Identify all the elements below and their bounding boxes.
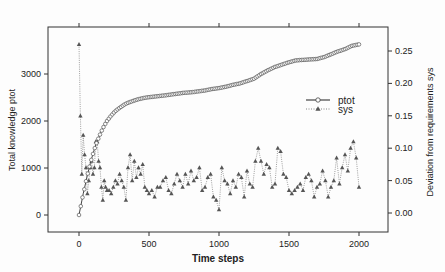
y-right-tick-label: 0.10 bbox=[395, 143, 413, 153]
triangle-marker-icon bbox=[262, 172, 266, 176]
triangle-marker-icon bbox=[253, 159, 257, 163]
triangle-marker-icon bbox=[92, 165, 96, 169]
triangle-marker-icon bbox=[320, 168, 324, 172]
triangle-marker-icon bbox=[343, 152, 347, 156]
triangle-marker-icon bbox=[186, 181, 190, 185]
legend-item-sys: sys bbox=[306, 104, 353, 115]
triangle-marker-icon bbox=[80, 172, 84, 176]
triangle-marker-icon bbox=[234, 185, 238, 189]
circle-marker-icon bbox=[83, 188, 87, 192]
triangle-marker-icon bbox=[152, 194, 156, 198]
triangle-marker-icon bbox=[172, 181, 176, 185]
triangle-marker-icon bbox=[318, 181, 322, 185]
circle-marker-icon bbox=[316, 98, 320, 102]
x-axis: 0500100015002000 bbox=[76, 232, 369, 249]
triangle-marker-icon bbox=[91, 172, 95, 176]
circle-marker-icon bbox=[88, 165, 92, 169]
triangle-marker-icon bbox=[141, 162, 145, 166]
triangle-marker-icon bbox=[158, 185, 162, 189]
triangle-marker-icon bbox=[138, 172, 142, 176]
circle-marker-icon bbox=[86, 172, 90, 176]
triangle-marker-icon bbox=[248, 181, 252, 185]
circle-marker-icon bbox=[91, 152, 95, 156]
triangle-marker-icon bbox=[166, 188, 170, 192]
triangle-marker-icon bbox=[180, 185, 184, 189]
circle-marker-icon bbox=[95, 141, 99, 145]
legend-label-sys: sys bbox=[338, 104, 353, 115]
triangle-marker-icon bbox=[245, 168, 249, 172]
triangle-marker-icon bbox=[130, 178, 134, 182]
triangle-marker-icon bbox=[134, 175, 138, 179]
x-axis-title: Time steps bbox=[192, 253, 244, 264]
triangle-marker-icon bbox=[315, 106, 320, 111]
triangle-marker-icon bbox=[150, 188, 154, 192]
triangle-marker-icon bbox=[222, 178, 226, 182]
triangle-marker-icon bbox=[256, 146, 260, 150]
y-right-tick-label: 0.00 bbox=[395, 208, 413, 218]
triangle-marker-icon bbox=[111, 185, 115, 189]
y-right-tick-label: 0.15 bbox=[395, 111, 413, 121]
triangle-marker-icon bbox=[329, 185, 333, 189]
y-left-tick-label: 3000 bbox=[21, 69, 41, 79]
triangle-marker-icon bbox=[143, 185, 147, 189]
triangle-marker-icon bbox=[122, 185, 126, 189]
triangle-marker-icon bbox=[217, 207, 221, 211]
triangle-marker-icon bbox=[228, 191, 232, 195]
triangle-marker-icon bbox=[101, 198, 105, 202]
triangle-marker-icon bbox=[194, 175, 198, 179]
circle-marker-icon bbox=[77, 213, 81, 217]
x-tick-label: 0 bbox=[76, 239, 81, 249]
triangle-marker-icon bbox=[273, 181, 277, 185]
triangle-marker-icon bbox=[81, 133, 85, 137]
triangle-marker-icon bbox=[309, 178, 313, 182]
triangle-marker-icon bbox=[301, 188, 305, 192]
triangle-marker-icon bbox=[128, 152, 132, 156]
triangle-marker-icon bbox=[126, 165, 130, 169]
triangle-marker-icon bbox=[183, 172, 187, 176]
triangle-marker-icon bbox=[132, 159, 136, 163]
triangle-marker-icon bbox=[351, 139, 355, 143]
triangle-marker-icon bbox=[113, 178, 117, 182]
y-left-axis: 0100020003000 bbox=[21, 69, 48, 220]
triangle-marker-icon bbox=[348, 146, 352, 150]
triangle-marker-icon bbox=[78, 113, 82, 117]
y-right-axis-title: Deviation from requirements sys bbox=[425, 67, 435, 197]
triangle-marker-icon bbox=[312, 194, 316, 198]
triangle-marker-icon bbox=[334, 156, 338, 160]
triangle-marker-icon bbox=[175, 172, 179, 176]
triangle-marker-icon bbox=[323, 178, 327, 182]
triangle-marker-icon bbox=[164, 175, 168, 179]
circle-marker-icon bbox=[81, 196, 85, 200]
triangle-marker-icon bbox=[354, 156, 358, 160]
circle-marker-icon bbox=[90, 158, 94, 162]
triangle-marker-icon bbox=[211, 194, 215, 198]
triangle-marker-icon bbox=[231, 178, 235, 182]
series-ptot bbox=[77, 43, 361, 217]
triangle-marker-icon bbox=[337, 181, 341, 185]
y-left-tick-label: 2000 bbox=[21, 116, 41, 126]
y-right-tick-label: 0.25 bbox=[395, 46, 413, 56]
triangle-marker-icon bbox=[236, 172, 240, 176]
triangle-marker-icon bbox=[189, 168, 193, 172]
triangle-marker-icon bbox=[242, 194, 246, 198]
triangle-marker-icon bbox=[259, 159, 263, 163]
circle-marker-icon bbox=[97, 137, 101, 141]
triangle-marker-icon bbox=[276, 146, 280, 150]
triangle-marker-icon bbox=[346, 168, 350, 172]
triangle-marker-icon bbox=[98, 165, 102, 169]
legend: ptot sys bbox=[306, 95, 355, 115]
y-left-tick-label: 1000 bbox=[21, 163, 41, 173]
y-right-tick-label: 0.05 bbox=[395, 176, 413, 186]
circle-marker-icon bbox=[98, 133, 102, 137]
triangle-marker-icon bbox=[120, 178, 124, 182]
triangle-marker-icon bbox=[298, 181, 302, 185]
x-tick-label: 2000 bbox=[349, 239, 369, 249]
triangle-marker-icon bbox=[264, 162, 268, 166]
x-tick-label: 1500 bbox=[279, 239, 299, 249]
triangle-marker-icon bbox=[287, 188, 291, 192]
triangle-marker-icon bbox=[136, 165, 140, 169]
triangle-marker-icon bbox=[357, 185, 361, 189]
x-tick-label: 500 bbox=[141, 239, 156, 249]
series-sys bbox=[77, 42, 361, 211]
triangle-marker-icon bbox=[220, 165, 224, 169]
